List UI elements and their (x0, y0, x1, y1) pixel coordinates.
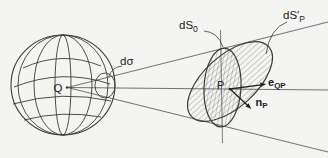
label-ds0-base: dS (179, 19, 193, 31)
sphere-meridian (18, 35, 108, 135)
label-p: P (217, 79, 224, 91)
label-ds0-subscript: 0 (193, 24, 198, 34)
label-np-subscript: P (262, 101, 268, 110)
label-dsp-base: dS′ (283, 9, 299, 21)
label-dsp: dS′P (283, 9, 305, 24)
sphere-parallel (13, 96, 111, 104)
label-dsp-subscript: P (299, 14, 305, 24)
point-q-dot (66, 86, 68, 88)
sphere-meridian (34, 35, 92, 135)
solid-angle-circle (95, 73, 115, 98)
sphere-parallel (24, 114, 101, 120)
sphere-outline (11, 35, 115, 135)
label-np: nP (256, 96, 269, 111)
label-ds0: dS0 (179, 19, 198, 34)
sphere-wireframe (11, 35, 115, 135)
label-q: Q (54, 82, 63, 94)
label-eqp-subscript: QP (274, 81, 286, 90)
figure-canvas: Q P dσ dS0 dS′P eQP nP (0, 0, 328, 158)
leader-ds0 (204, 31, 223, 47)
diagram-svg: Q P dσ dS0 dS′P eQP nP (0, 0, 328, 158)
label-dsigma: dσ (120, 55, 134, 67)
label-eqp: eQP (268, 76, 286, 91)
